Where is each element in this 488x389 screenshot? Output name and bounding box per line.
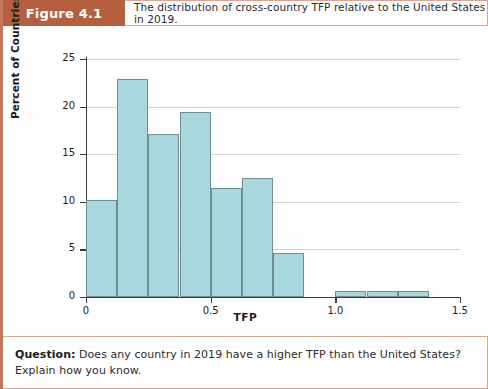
histogram-bar	[367, 291, 398, 297]
y-tick-label: 25	[43, 52, 75, 63]
question-label: Question:	[15, 348, 75, 361]
histogram-bar	[398, 291, 429, 297]
x-tick-mark	[211, 298, 212, 303]
question-paragraph: Question: Does any country in 2019 have …	[15, 347, 473, 379]
y-tick-mark	[80, 107, 86, 108]
y-tick-mark	[80, 59, 86, 60]
y-tick-mark	[80, 154, 86, 155]
histogram-bar	[86, 200, 117, 297]
question-body: Does any country in 2019 have a higher T…	[15, 348, 461, 377]
question-footer: Question: Does any country in 2019 have …	[3, 336, 488, 389]
y-tick-label: 5	[43, 242, 75, 253]
figure-header: Figure 4.1 The distribution of cross-cou…	[3, 0, 488, 26]
gridline	[87, 59, 460, 60]
x-tick-label: 1.5	[440, 305, 480, 316]
x-tick-label: 1.0	[315, 305, 355, 316]
y-tick-label: 20	[43, 100, 75, 111]
figure-caption: The distribution of cross-country TFP re…	[125, 0, 488, 26]
y-tick-label: 15	[43, 147, 75, 158]
x-tick-label: 0.5	[191, 305, 231, 316]
y-tick-label: 10	[43, 195, 75, 206]
histogram-bar	[180, 112, 211, 297]
chart-plot-area: Percent of Countries TFP 0510152025 00.5…	[3, 26, 488, 336]
histogram-bar	[273, 253, 304, 297]
y-axis-label: Percent of Countries	[9, 0, 21, 122]
histogram-bar	[335, 291, 366, 297]
x-tick-label: 0	[66, 305, 106, 316]
histogram-bar	[242, 178, 273, 297]
histogram-bar	[211, 188, 242, 297]
histogram-bar	[148, 134, 179, 297]
figure-number-badge: Figure 4.1	[3, 0, 125, 26]
x-axis-line	[85, 297, 461, 298]
x-tick-mark	[86, 298, 87, 303]
y-tick-label: 0	[43, 290, 75, 301]
x-tick-mark	[335, 298, 336, 303]
histogram-bar	[117, 79, 148, 297]
x-tick-mark	[460, 298, 461, 303]
